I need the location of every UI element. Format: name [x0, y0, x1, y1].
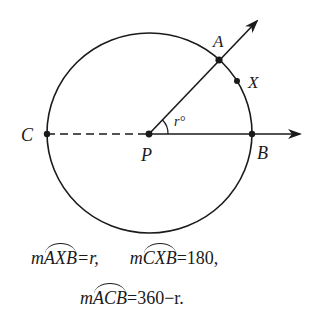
- point-a: [215, 56, 222, 63]
- angle-label: r°: [174, 114, 185, 129]
- measure-prefix: m: [80, 288, 93, 308]
- label-p: P: [140, 145, 152, 165]
- equation-rhs: =180,: [177, 248, 219, 268]
- angle-arc: [163, 120, 169, 134]
- equation-rhs: =360−r.: [127, 288, 184, 308]
- point-b: [249, 131, 255, 137]
- label-c: C: [21, 125, 34, 145]
- measure-prefix: m: [130, 248, 143, 268]
- arc-cxb-name: CXB: [143, 249, 177, 267]
- label-x: X: [247, 73, 259, 92]
- label-a: A: [212, 32, 224, 51]
- equation-arc-cxb: mCXB=180,: [130, 248, 219, 268]
- measure-prefix: m: [31, 248, 44, 268]
- point-x: [234, 78, 240, 84]
- equation-line-2: mACB=360−r.: [80, 289, 184, 307]
- equation-arc-axb: mAXB=r,: [31, 248, 103, 268]
- arc-axb-name: AXB: [44, 249, 77, 267]
- arc-acb-name: ACB: [93, 289, 127, 307]
- point-c: [44, 131, 50, 137]
- ray-pa: [149, 21, 257, 134]
- label-b: B: [257, 143, 268, 163]
- point-p: [146, 131, 153, 138]
- equation-arc-acb: mACB=360−r.: [80, 288, 184, 308]
- equation-line-1: mAXB=r, mCXB=180,: [31, 249, 218, 267]
- equation-rhs: =r,: [77, 248, 99, 268]
